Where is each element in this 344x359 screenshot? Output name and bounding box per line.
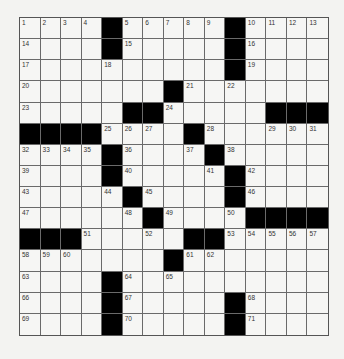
grid-cell[interactable] bbox=[143, 293, 164, 314]
grid-cell[interactable] bbox=[287, 250, 308, 271]
grid-cell[interactable] bbox=[61, 208, 82, 229]
grid-cell[interactable] bbox=[266, 187, 287, 208]
grid-cell[interactable] bbox=[41, 208, 62, 229]
grid-cell[interactable]: 26 bbox=[123, 124, 144, 145]
grid-cell[interactable] bbox=[205, 314, 226, 335]
grid-cell[interactable] bbox=[287, 81, 308, 102]
grid-cell[interactable] bbox=[82, 187, 103, 208]
grid-cell[interactable] bbox=[102, 103, 123, 124]
grid-cell[interactable] bbox=[123, 81, 144, 102]
grid-cell[interactable] bbox=[307, 293, 328, 314]
grid-cell[interactable] bbox=[102, 208, 123, 229]
grid-cell[interactable] bbox=[246, 124, 267, 145]
grid-cell[interactable]: 47 bbox=[20, 208, 41, 229]
grid-cell[interactable]: 66 bbox=[20, 293, 41, 314]
grid-cell[interactable]: 48 bbox=[123, 208, 144, 229]
grid-cell[interactable] bbox=[41, 187, 62, 208]
grid-cell[interactable]: 5 bbox=[123, 18, 144, 39]
grid-cell[interactable] bbox=[205, 272, 226, 293]
grid-cell[interactable] bbox=[164, 187, 185, 208]
grid-cell[interactable] bbox=[143, 314, 164, 335]
grid-cell[interactable]: 46 bbox=[246, 187, 267, 208]
grid-cell[interactable] bbox=[307, 250, 328, 271]
grid-cell[interactable] bbox=[164, 145, 185, 166]
grid-cell[interactable]: 33 bbox=[41, 145, 62, 166]
grid-cell[interactable]: 7 bbox=[164, 18, 185, 39]
grid-cell[interactable]: 14 bbox=[20, 39, 41, 60]
grid-cell[interactable] bbox=[307, 166, 328, 187]
grid-cell[interactable] bbox=[41, 293, 62, 314]
grid-cell[interactable]: 17 bbox=[20, 60, 41, 81]
grid-cell[interactable] bbox=[164, 60, 185, 81]
grid-cell[interactable] bbox=[164, 39, 185, 60]
grid-cell[interactable]: 9 bbox=[205, 18, 226, 39]
grid-cell[interactable] bbox=[164, 229, 185, 250]
grid-cell[interactable]: 21 bbox=[184, 81, 205, 102]
grid-cell[interactable] bbox=[102, 81, 123, 102]
grid-cell[interactable] bbox=[266, 60, 287, 81]
grid-cell[interactable] bbox=[287, 314, 308, 335]
grid-cell[interactable]: 52 bbox=[143, 229, 164, 250]
grid-cell[interactable]: 29 bbox=[266, 124, 287, 145]
grid-cell[interactable] bbox=[61, 81, 82, 102]
grid-cell[interactable] bbox=[266, 39, 287, 60]
grid-cell[interactable] bbox=[307, 81, 328, 102]
grid-cell[interactable] bbox=[184, 293, 205, 314]
grid-cell[interactable] bbox=[205, 293, 226, 314]
grid-cell[interactable]: 24 bbox=[164, 103, 185, 124]
grid-cell[interactable] bbox=[102, 229, 123, 250]
grid-cell[interactable]: 11 bbox=[266, 18, 287, 39]
grid-cell[interactable] bbox=[225, 272, 246, 293]
grid-cell[interactable] bbox=[225, 103, 246, 124]
grid-cell[interactable] bbox=[102, 250, 123, 271]
grid-cell[interactable] bbox=[143, 272, 164, 293]
grid-cell[interactable] bbox=[287, 272, 308, 293]
grid-cell[interactable]: 69 bbox=[20, 314, 41, 335]
grid-cell[interactable] bbox=[266, 81, 287, 102]
grid-cell[interactable] bbox=[266, 250, 287, 271]
grid-cell[interactable]: 20 bbox=[20, 81, 41, 102]
grid-cell[interactable] bbox=[41, 39, 62, 60]
grid-cell[interactable]: 62 bbox=[205, 250, 226, 271]
grid-cell[interactable] bbox=[184, 187, 205, 208]
grid-cell[interactable]: 30 bbox=[287, 124, 308, 145]
grid-cell[interactable] bbox=[246, 272, 267, 293]
grid-cell[interactable] bbox=[205, 39, 226, 60]
grid-cell[interactable] bbox=[41, 103, 62, 124]
grid-cell[interactable] bbox=[143, 166, 164, 187]
grid-cell[interactable]: 39 bbox=[20, 166, 41, 187]
grid-cell[interactable] bbox=[82, 250, 103, 271]
grid-cell[interactable] bbox=[184, 314, 205, 335]
grid-cell[interactable] bbox=[82, 272, 103, 293]
grid-cell[interactable] bbox=[246, 103, 267, 124]
grid-cell[interactable] bbox=[246, 250, 267, 271]
grid-cell[interactable]: 61 bbox=[184, 250, 205, 271]
grid-cell[interactable]: 65 bbox=[164, 272, 185, 293]
grid-cell[interactable] bbox=[82, 293, 103, 314]
grid-cell[interactable] bbox=[225, 250, 246, 271]
grid-cell[interactable] bbox=[184, 103, 205, 124]
grid-cell[interactable] bbox=[82, 39, 103, 60]
grid-cell[interactable]: 1 bbox=[20, 18, 41, 39]
grid-cell[interactable]: 3 bbox=[61, 18, 82, 39]
grid-cell[interactable] bbox=[82, 103, 103, 124]
grid-cell[interactable] bbox=[205, 81, 226, 102]
grid-cell[interactable] bbox=[143, 250, 164, 271]
grid-cell[interactable] bbox=[82, 208, 103, 229]
grid-cell[interactable] bbox=[287, 39, 308, 60]
grid-cell[interactable] bbox=[61, 39, 82, 60]
grid-cell[interactable] bbox=[307, 145, 328, 166]
grid-cell[interactable]: 16 bbox=[246, 39, 267, 60]
grid-cell[interactable] bbox=[123, 60, 144, 81]
grid-cell[interactable]: 4 bbox=[82, 18, 103, 39]
grid-cell[interactable]: 34 bbox=[61, 145, 82, 166]
grid-cell[interactable] bbox=[41, 166, 62, 187]
grid-cell[interactable]: 53 bbox=[225, 229, 246, 250]
grid-cell[interactable] bbox=[287, 145, 308, 166]
grid-cell[interactable] bbox=[307, 314, 328, 335]
grid-cell[interactable] bbox=[307, 39, 328, 60]
grid-cell[interactable]: 15 bbox=[123, 39, 144, 60]
grid-cell[interactable] bbox=[184, 208, 205, 229]
grid-cell[interactable]: 56 bbox=[287, 229, 308, 250]
grid-cell[interactable] bbox=[82, 60, 103, 81]
